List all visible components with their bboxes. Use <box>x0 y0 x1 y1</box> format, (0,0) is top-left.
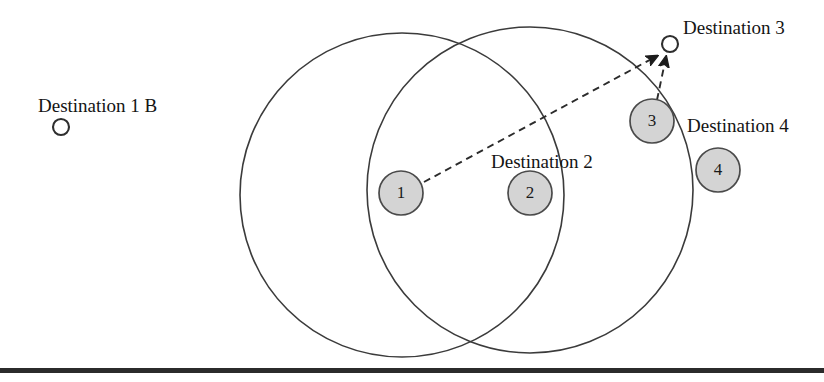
destination-2-label: Destination 2 <box>491 151 593 172</box>
agent-node-3[interactable]: 3 <box>630 99 674 143</box>
destination-1b-marker[interactable] <box>53 119 69 135</box>
agent-node-2[interactable]: 2 <box>508 171 552 215</box>
destination-marker-group <box>53 36 678 135</box>
baseline-rule <box>0 368 824 373</box>
destination-3-label: Destination 3 <box>683 17 785 38</box>
figure-canvas: 1 2 3 4 Destination 1 B Destination 2 De… <box>0 0 824 382</box>
agent-label-1: 1 <box>397 183 406 202</box>
destination-4-label: Destination 4 <box>687 115 789 136</box>
agent-node-4[interactable]: 4 <box>696 148 740 192</box>
agent-label-3: 3 <box>648 111 657 130</box>
agent-node-1[interactable]: 1 <box>379 171 423 215</box>
diagram-svg: 1 2 3 4 Destination 1 B Destination 2 De… <box>0 0 824 382</box>
agent-label-2: 2 <box>526 183 535 202</box>
destination-1b-label: Destination 1 B <box>38 95 157 116</box>
destination-3-marker[interactable] <box>662 36 678 52</box>
coverage-circle-group <box>240 27 693 357</box>
agent-label-4: 4 <box>714 160 723 179</box>
